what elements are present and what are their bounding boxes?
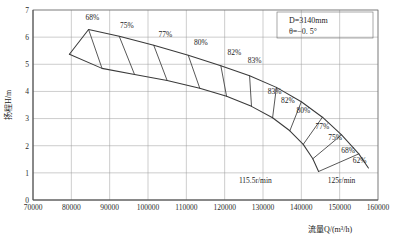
efficiency-labels-group: 68%75%77%80%82%83%83%82%80%77%75%68%62%: [86, 13, 367, 165]
efficiency-label: 83%: [268, 87, 282, 96]
speed-line-labels-group: 115.5r/min125r/min: [239, 176, 356, 185]
efficiency-label: 75%: [120, 21, 134, 30]
efficiency-label: 77%: [158, 30, 172, 39]
efficiency-label: 82%: [281, 96, 295, 105]
annotation-box: D=3140mmθ=−0. 5°: [277, 12, 373, 38]
speed-line-label: 125r/min: [328, 176, 356, 185]
efficiency-label: 68%: [341, 146, 355, 155]
speed-line-label: 115.5r/min: [239, 176, 272, 185]
efficiency-label: 68%: [86, 13, 100, 22]
x-tick-label: 110000: [175, 203, 197, 212]
speed-line: [89, 30, 102, 69]
pump-performance-chart: 68%75%77%80%82%83%83%82%80%77%75%68%62% …: [0, 0, 393, 250]
y-tick-label: 0: [25, 196, 29, 205]
x-tick-label: 150000: [328, 203, 351, 212]
y-tick-label: 4: [25, 87, 29, 96]
efficiency-label: 80%: [194, 38, 208, 47]
chart-svg: 68%75%77%80%82%83%83%82%80%77%75%68%62% …: [0, 0, 393, 250]
y-tick-label: 5: [25, 60, 29, 69]
efficiency-label: 75%: [328, 133, 342, 142]
y-axis-ticklabels: 01234567: [25, 6, 29, 205]
y-tick-label: 3: [25, 114, 29, 123]
y-tick-label: 7: [25, 6, 29, 15]
blade-angle-note: θ=−0. 5°: [289, 27, 317, 36]
x-tick-label: 100000: [137, 203, 160, 212]
speed-line: [154, 45, 167, 80]
x-tick-label: 160000: [367, 203, 390, 212]
y-tick-label: 2: [25, 142, 29, 151]
speed-line: [250, 76, 252, 107]
efficiency-label: 77%: [316, 122, 330, 131]
x-tick-label: 120000: [213, 203, 236, 212]
y-axis-title: 扬程H/m: [3, 89, 13, 120]
x-tick-label: 140000: [290, 203, 313, 212]
efficiency-label: 62%: [353, 156, 367, 165]
x-axis-ticklabels: 7000080000900001000001100001200001300001…: [24, 203, 390, 212]
speed-lines-group: [89, 30, 359, 172]
impeller-diameter-note: D=3140mm: [289, 16, 329, 25]
x-tick-label: 90000: [100, 203, 119, 212]
x-tick-label: 130000: [252, 203, 275, 212]
speed-line: [188, 55, 200, 88]
efficiency-label: 83%: [248, 56, 262, 65]
efficiency-label: 82%: [227, 48, 241, 57]
speed-line: [119, 36, 134, 74]
x-axis-title: 流量Q/(m³/h): [308, 224, 353, 234]
speed-line: [221, 66, 227, 97]
x-tick-label: 80000: [62, 203, 81, 212]
y-tick-label: 1: [25, 169, 29, 178]
y-tick-label: 6: [25, 33, 29, 42]
efficiency-label: 80%: [296, 106, 310, 115]
band-edge-curve: [69, 30, 368, 168]
